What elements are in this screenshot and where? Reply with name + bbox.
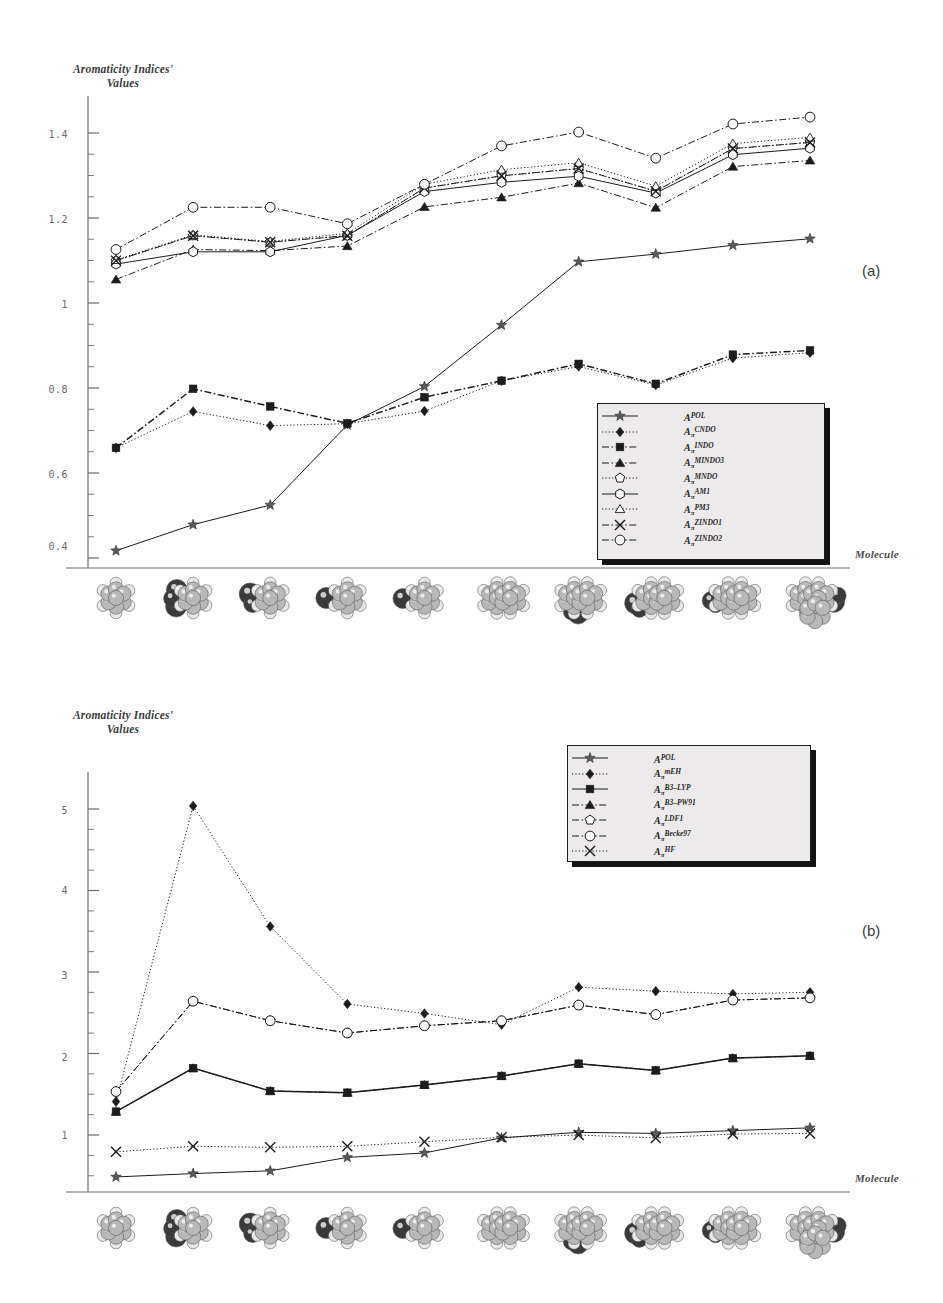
molecule-model-6 [478, 1207, 530, 1250]
molecule-model-8 [625, 1207, 684, 1250]
molecule-model-4 [316, 1207, 366, 1249]
molecule-model-7 [555, 577, 607, 624]
panel-b: Aromaticity Indices'Values (b) Molecule … [0, 660, 943, 1303]
molecule-model-9 [702, 577, 761, 620]
molecule-model-6 [478, 577, 530, 620]
panel-a-molecules [0, 0, 943, 660]
molecule-model-5 [393, 577, 443, 619]
panel-a: Aromaticity Indices'Values (a) Molecule … [0, 0, 943, 660]
molecule-model-2 [164, 577, 212, 619]
panel-b-molecules [0, 660, 943, 1303]
molecule-model-7 [555, 1207, 607, 1254]
molecule-model-1 [97, 577, 135, 619]
molecule-model-4 [316, 577, 366, 619]
figure-page: Aromaticity Indices'Values (a) Molecule … [0, 0, 943, 1303]
molecule-model-8 [625, 577, 684, 620]
molecule-model-3 [239, 577, 289, 619]
molecule-model-2 [164, 1207, 212, 1249]
molecule-model-9 [702, 1207, 761, 1250]
molecule-model-3 [239, 1207, 289, 1249]
molecule-model-10 [786, 577, 846, 629]
molecule-model-1 [97, 1207, 135, 1249]
molecule-model-5 [393, 1207, 443, 1249]
molecule-model-10 [786, 1207, 846, 1259]
